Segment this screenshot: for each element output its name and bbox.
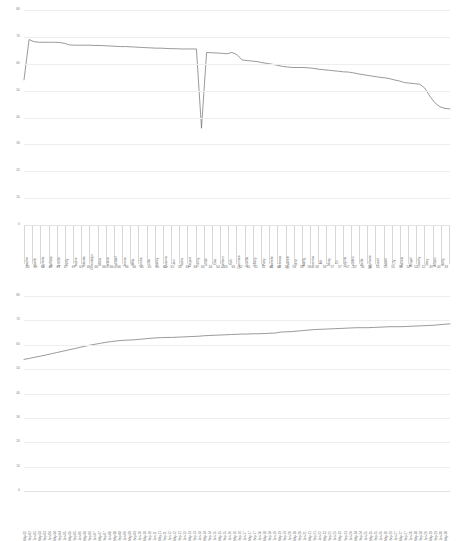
- gridline: [24, 10, 450, 11]
- date-label: May-25: [370, 531, 373, 541]
- axis-value-cell: 67: [47, 266, 55, 272]
- date-label: Jan-28: [410, 532, 413, 541]
- date-label: Jan-25: [365, 532, 368, 541]
- date-label: Sep-18: [269, 531, 272, 540]
- date-label: May-16: [234, 531, 237, 541]
- date-label: Sep-03: [44, 531, 47, 540]
- date-label: Sep-27: [405, 531, 408, 540]
- category-cell: Rachael: [115, 226, 123, 264]
- bottom-chart-date-axis: May-02Sep-02Jan-03May-03Sep-03Jan-04May-…: [24, 494, 450, 536]
- axis-value-cell: 60: [275, 266, 283, 272]
- date-label: May-24: [355, 531, 358, 541]
- y-axis-tick-label: 40: [16, 392, 20, 395]
- category-cell: Adelly: [303, 226, 311, 264]
- date-label: Jan-15: [214, 532, 217, 541]
- axis-value-cell: 61: [260, 266, 268, 272]
- date-label: May-30: [445, 531, 448, 541]
- axis-value-cell: 67: [62, 266, 70, 272]
- date-label: May-22: [325, 531, 328, 541]
- category-cell: Lourdes: [352, 226, 360, 264]
- axis-value-cell: 65: [184, 266, 192, 272]
- date-label: May-05: [69, 531, 72, 541]
- date-label: Jan-09: [124, 532, 127, 541]
- top-chart-plot-area: [24, 10, 450, 225]
- y-axis-tick-label: 10: [16, 465, 20, 468]
- date-label: Jan-17: [244, 532, 247, 541]
- axis-value-cell: 61: [252, 266, 260, 272]
- date-label: Sep-28: [420, 531, 423, 540]
- axis-value-cell: 57: [328, 266, 336, 272]
- date-label: May-08: [114, 531, 117, 541]
- axis-value-cell: 55: [382, 266, 390, 272]
- y-axis-tick-label: 10: [16, 196, 20, 199]
- date-label: Sep-13: [194, 531, 197, 540]
- date-label: Jan-22: [320, 532, 323, 541]
- gridline: [24, 320, 450, 321]
- category-label: Lily: [393, 260, 396, 265]
- date-label: Jan-27: [395, 532, 398, 541]
- axis-value-cell: 65: [146, 266, 154, 272]
- top-chart-category-table: HeatherNoelleOpheliaBarbaraJenniferKelly…: [24, 226, 450, 264]
- axis-value-cell: 49: [427, 266, 435, 272]
- gridline: [24, 37, 450, 38]
- axis-value-cell: 68: [39, 266, 47, 272]
- gridline: [24, 467, 450, 468]
- gridline: [24, 144, 450, 145]
- date-label: Jan-26: [380, 532, 383, 541]
- category-cell: Quianna: [164, 226, 172, 264]
- axis-value-cell: 64: [214, 266, 222, 272]
- top-chart-value-row: 7069686767676767686666666666666565656565…: [24, 266, 450, 272]
- date-label: Sep-23: [345, 531, 348, 540]
- category-cell: Missy: [327, 226, 335, 264]
- axis-value-cell: 70: [24, 266, 32, 272]
- axis-value-cell: 57: [351, 266, 359, 272]
- axis-value-cell: 63: [229, 266, 237, 272]
- axis-value-cell: 57: [344, 266, 352, 272]
- date-label: Sep-02: [29, 531, 32, 540]
- gridline: [24, 198, 450, 199]
- category-cell: Tiffany: [254, 226, 262, 264]
- date-label: May-15: [219, 531, 222, 541]
- gridline: [24, 369, 450, 370]
- date-label: Sep-04: [59, 531, 62, 540]
- date-label: May-19: [279, 531, 282, 541]
- category-cell: Isabel: [385, 226, 393, 264]
- date-label: May-03: [39, 531, 42, 541]
- axis-value-cell: 58: [306, 266, 314, 272]
- y-axis-tick-label: 60: [16, 343, 20, 346]
- y-axis-tick-label: 80: [16, 8, 20, 11]
- date-label: May-11: [159, 531, 162, 540]
- date-label: Jan-03: [34, 532, 37, 541]
- axis-value-cell: 55: [389, 266, 397, 272]
- axis-value-cell: 62: [237, 266, 245, 272]
- date-label: Sep-29: [435, 531, 438, 540]
- category-label: Abi: [320, 260, 323, 264]
- date-label: Jan-21: [304, 532, 307, 541]
- date-label: May-26: [385, 531, 388, 541]
- date-label: Jan-11: [154, 532, 157, 541]
- date-label: May-09: [129, 531, 132, 541]
- category-cell: Nancy: [156, 226, 164, 264]
- category-cell: Veronica: [311, 226, 319, 264]
- date-label: Jan-08: [109, 532, 112, 541]
- date-label: Sep-19: [284, 531, 287, 540]
- date-label: Jan-06: [79, 532, 82, 541]
- date-label: May-29: [430, 531, 433, 541]
- date-label: May-14: [204, 531, 207, 541]
- date-label: May-07: [99, 531, 102, 541]
- gridline: [24, 91, 450, 92]
- axis-value-cell: 67: [54, 266, 62, 272]
- date-label: Sep-14: [209, 531, 212, 540]
- date-label: Jan-20: [289, 532, 292, 541]
- axis-value-cell: 66: [131, 266, 139, 272]
- date-label: Jan-16: [229, 532, 232, 541]
- date-label: Jan-12: [169, 532, 172, 541]
- date-label: Sep-15: [224, 531, 227, 540]
- gridline: [24, 491, 450, 492]
- y-axis-tick-label: 30: [16, 143, 20, 146]
- date-label: May-17: [249, 531, 252, 541]
- category-label: Fanny: [197, 258, 200, 267]
- gridline: [24, 442, 450, 443]
- category-cell: Elsa: [213, 226, 221, 264]
- date-label: Jan-24: [350, 532, 353, 541]
